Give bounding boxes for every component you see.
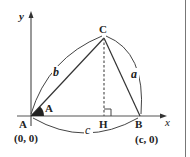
y-axis-arrow-icon	[29, 11, 34, 18]
vertex-b-coords: (c, 0)	[135, 133, 159, 146]
vertex-h-label: H	[99, 118, 108, 130]
vertex-a-coords: (0, 0)	[14, 132, 38, 145]
angle-a-label: A	[45, 102, 53, 114]
side-c-label: c	[85, 123, 91, 137]
side-b-label: b	[53, 65, 59, 79]
triangle-diagram: y x b a c C A A (0, 0) H B (c, 0)	[0, 0, 190, 157]
x-axis-label: x	[164, 116, 170, 128]
right-angle-mark-icon	[104, 109, 111, 116]
side-a-label: a	[131, 67, 137, 81]
vertex-b-label: B	[135, 118, 143, 130]
y-axis-label: y	[17, 10, 24, 22]
vertex-a-label: A	[19, 118, 27, 130]
side-b-segment	[31, 38, 104, 116]
vertex-c-label: C	[99, 23, 107, 35]
arc-b	[31, 36, 102, 114]
